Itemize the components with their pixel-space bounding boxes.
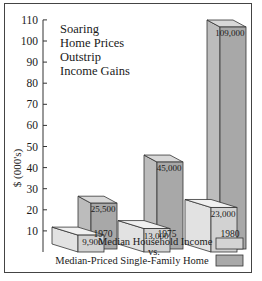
income-bar-1980-value-label: 23,000 [211, 209, 236, 219]
home-bar-1975-value-label: 45,000 [157, 163, 182, 173]
home-bar-1980-value-label: 109,000 [215, 28, 245, 38]
y-tick-label: 40 [27, 162, 39, 174]
y-tick-label: 60 [27, 119, 39, 131]
y-tick-label: 100 [21, 35, 39, 47]
y-tick-label: 70 [27, 98, 39, 110]
y-tick-label: 80 [27, 77, 39, 89]
y-tick-label: 20 [27, 204, 39, 216]
y-tick-label: 10 [27, 225, 39, 237]
y-tick-label: 50 [27, 141, 39, 153]
legend-swatch-income [216, 238, 243, 249]
legend-label-home: Median-Priced Single-Family Home [52, 255, 212, 266]
legend-swatch-home [216, 255, 243, 266]
home-bar-1970-value-label: 25,500 [91, 204, 116, 214]
y-tick-label: 110 [21, 14, 38, 26]
y-tick-label: 30 [27, 183, 39, 195]
y-tick-label: 90 [27, 56, 39, 68]
x-tick-label-1980: 1980 [221, 229, 240, 239]
